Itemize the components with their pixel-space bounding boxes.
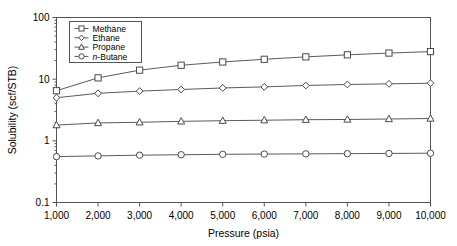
x-axis-tick-label: 4,000 [169, 210, 194, 221]
series-line-n-butane [57, 153, 431, 156]
data-point-ethane [95, 90, 102, 97]
data-point-ethane [53, 94, 60, 101]
series-line-propane [57, 119, 431, 126]
data-point-methane [427, 48, 433, 54]
series-line-ethane [57, 83, 431, 98]
y-axis-tick-label: 0.1 [36, 197, 50, 208]
data-point-ethane [261, 83, 268, 90]
data-point-ethane [427, 80, 434, 87]
data-point-ethane [178, 86, 185, 93]
data-point-methane [303, 54, 309, 60]
data-point-n-butane [427, 150, 433, 156]
data-point-methane [178, 62, 184, 68]
x-axis-tick-label: 9,000 [376, 210, 401, 221]
data-point-methane [53, 88, 59, 94]
y-axis-title: Solubility (scf/STB) [6, 66, 18, 155]
data-point-n-butane [303, 151, 309, 157]
y-axis-tick-label: 1 [44, 135, 50, 146]
x-axis-tick-label: 10,000 [415, 210, 446, 221]
data-point-n-butane [178, 152, 184, 158]
data-point-n-butane [53, 153, 59, 159]
data-point-n-butane [95, 153, 101, 159]
data-point-ethane [344, 81, 351, 88]
y-axis-tick-label: 100 [33, 12, 50, 23]
data-point-n-butane [344, 150, 350, 156]
data-point-methane [261, 56, 267, 62]
legend-marker-0 [79, 26, 84, 31]
data-point-n-butane [386, 150, 392, 156]
data-point-n-butane [220, 151, 226, 157]
data-point-methane [386, 50, 392, 56]
data-point-methane [137, 67, 143, 73]
y-axis-tick-label: 10 [38, 74, 50, 85]
data-point-ethane [136, 88, 143, 95]
legend-marker-3 [79, 54, 84, 59]
chart-canvas: 0.11101001,0002,0003,0004,0005,0006,0007… [0, 0, 457, 246]
data-point-propane [302, 116, 309, 122]
x-axis-title: Pressure (psia) [208, 227, 279, 239]
data-point-methane [95, 75, 101, 81]
legend-label-3: n-Butane [93, 52, 128, 62]
data-point-n-butane [136, 152, 142, 158]
data-point-ethane [219, 85, 226, 92]
data-point-propane [427, 115, 434, 121]
data-point-methane [344, 52, 350, 58]
data-point-ethane [302, 82, 309, 89]
x-axis-tick-label: 8,000 [335, 210, 360, 221]
x-axis-tick-label: 6,000 [252, 210, 277, 221]
x-axis-tick-label: 3,000 [127, 210, 152, 221]
x-axis-tick-label: 7,000 [293, 210, 318, 221]
data-point-methane [220, 59, 226, 65]
data-point-n-butane [261, 151, 267, 157]
x-axis-tick-label: 1,000 [44, 210, 69, 221]
x-axis-tick-label: 5,000 [210, 210, 235, 221]
x-axis-tick-label: 2,000 [86, 210, 111, 221]
data-point-ethane [386, 80, 393, 87]
solubility-vs-pressure-chart: 0.11101001,0002,0003,0004,0005,0006,0007… [0, 0, 457, 246]
